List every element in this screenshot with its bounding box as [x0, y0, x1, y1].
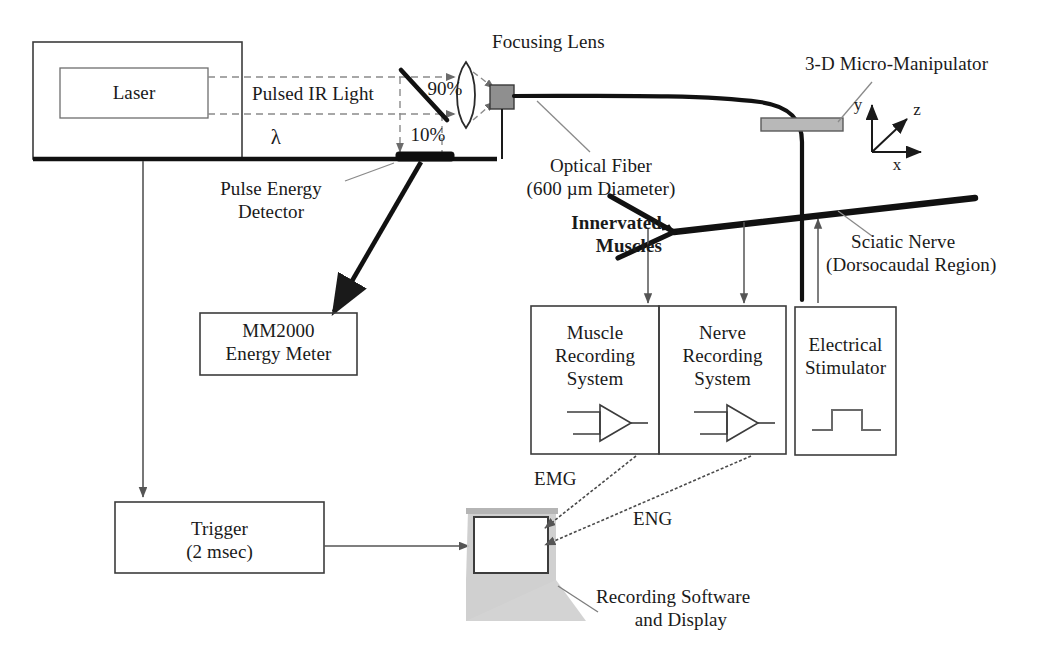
split-10-percent-label: 10% — [404, 124, 452, 146]
sciatic-nerve — [674, 198, 975, 232]
pulse-energy-detector-label-line2: Detector — [196, 201, 346, 223]
axis-z-label: z — [908, 100, 926, 120]
muscle-recording-label-line1: Muscle — [531, 322, 659, 344]
split-90-percent-label: 90% — [421, 78, 469, 100]
muscle-recording-label-line3: System — [531, 368, 659, 390]
optical-fiber-leader-line — [537, 101, 590, 152]
pulse-energy-detector-label-line1: Pulse Energy — [196, 178, 346, 200]
micro-manipulator — [761, 118, 843, 131]
nerve-recording-label-line1: Nerve — [659, 322, 786, 344]
sciatic-nerve-label-line2: (Dorsocaudal Region) — [826, 254, 996, 276]
laser-label: Laser — [60, 82, 208, 104]
axis-x-label: x — [888, 155, 906, 175]
recording-software-label-line1: Recording Software — [596, 586, 750, 608]
electrical-stimulator-label-line2: Stimulator — [795, 357, 896, 379]
detector-to-meter-link — [334, 162, 421, 312]
energy-meter-label-line2: Energy Meter — [200, 343, 357, 365]
detector-leader-line — [345, 163, 394, 181]
pulse-energy-detector — [396, 152, 454, 161]
fiber-coupler-block — [490, 85, 514, 159]
innervated-muscles-label-line1: Innervated — [517, 212, 662, 234]
trigger-label-line1: Trigger — [115, 518, 324, 540]
laptop-illustration — [466, 508, 586, 621]
amplifier-icon-nerve — [694, 405, 775, 441]
pulse-waveform-icon — [812, 410, 881, 430]
axis-y-label: y — [849, 95, 867, 115]
eng-label: ENG — [633, 508, 672, 530]
muscle-recording-label-line2: Recording — [531, 345, 659, 367]
energy-meter-label-line1: MM2000 — [200, 320, 357, 342]
trigger-label-line2: (2 msec) — [115, 541, 324, 563]
electrical-stimulator-box — [795, 307, 896, 455]
nerve-recording-label-line2: Recording — [659, 345, 786, 367]
innervated-muscles-label-line2: Muscles — [517, 235, 662, 257]
figure-canvas: Laser Pulsed IR Light λ 90% 10% Focusing… — [0, 0, 1038, 662]
micro-manipulator-label: 3-D Micro-Manipulator — [805, 53, 988, 75]
electrical-stimulator-label-line1: Electrical — [795, 334, 896, 356]
emg-label: EMG — [534, 468, 577, 490]
nerve-recording-label-line3: System — [659, 368, 786, 390]
recording-software-label-line2: and Display — [596, 609, 766, 631]
sciatic-nerve-label-line1: Sciatic Nerve — [851, 231, 955, 253]
pulsed-ir-light-label: Pulsed IR Light — [228, 83, 398, 105]
optical-fiber-label-line2: (600 µm Diameter) — [496, 178, 706, 200]
focusing-lens-label: Focusing Lens — [492, 31, 605, 53]
emg-signal-arrow — [545, 456, 636, 528]
wavelength-lambda-label: λ — [256, 125, 296, 150]
optical-fiber-label-line1: Optical Fiber — [511, 155, 691, 177]
amplifier-icon-muscle — [567, 405, 648, 441]
